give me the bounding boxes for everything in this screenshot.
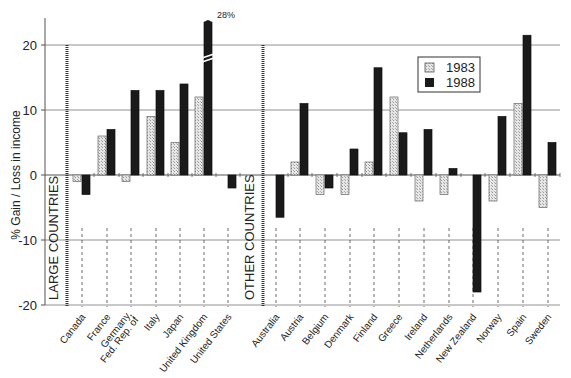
y-tick-label: 0: [30, 168, 37, 183]
bar-1988: [325, 175, 333, 188]
bar-1983: [122, 175, 130, 182]
bar-1988: [82, 175, 90, 195]
bar-1983: [98, 136, 106, 175]
bar-1988: [399, 133, 407, 175]
bar-1988: [449, 169, 457, 176]
bar-1988: [300, 104, 308, 176]
bar-chart: 20100-10-20LARGE COUNTRIESOTHER COUNTRIE…: [0, 0, 571, 378]
category-label: Greece: [376, 311, 405, 344]
bar-1983: [514, 104, 522, 176]
bar-1988: [156, 91, 164, 176]
bar-1988: [374, 68, 382, 175]
category-label: Italy: [142, 311, 162, 332]
bar-1988: [131, 91, 139, 176]
bar-annotation: 28%: [217, 10, 235, 20]
bar-1988: [180, 84, 188, 175]
group-label: OTHER COUNTRIES: [242, 174, 257, 300]
category-label: Finland: [351, 311, 380, 344]
bar-1988: [548, 143, 556, 176]
bar-1988: [276, 175, 284, 217]
bar-cap: [204, 20, 212, 23]
bar-1983: [171, 143, 179, 176]
bar-1988: [204, 22, 212, 175]
bar-1983: [415, 175, 423, 201]
bar-1983: [195, 97, 203, 175]
bar-1983: [539, 175, 547, 208]
category-label: Spain: [504, 311, 528, 338]
y-axis-label: % Gain / Loss in income: [9, 110, 23, 240]
y-tick-label: 20: [23, 38, 37, 53]
bar-1983: [390, 97, 398, 175]
bar-1983: [73, 175, 81, 182]
bar-1988: [350, 149, 358, 175]
y-tick-label: 10: [23, 103, 37, 118]
bar-1983: [365, 162, 373, 175]
category-label: Sweden: [523, 311, 554, 346]
group-label: LARGE COUNTRIES: [46, 175, 61, 300]
bar-1988: [107, 130, 115, 176]
category-label: Norway: [474, 311, 504, 344]
bar-1983: [291, 162, 299, 175]
bar-1988: [473, 175, 481, 292]
bars: [73, 20, 556, 292]
category-label: Canada: [57, 311, 88, 346]
legend-label-1988: 1988: [446, 75, 475, 90]
bar-1983: [341, 175, 349, 195]
legend-swatch-1988: [425, 78, 434, 87]
legend-label-1983: 1983: [446, 60, 475, 75]
bar-1983: [147, 117, 155, 176]
bar-1983: [440, 175, 448, 195]
legend-swatch-1983: [425, 63, 434, 72]
bar-1988: [523, 35, 531, 175]
bar-1988: [424, 130, 432, 176]
y-tick-label: -20: [18, 298, 37, 313]
legend: 1983 1988: [418, 57, 480, 92]
bar-1988: [228, 175, 236, 188]
category-label: Australia: [249, 311, 282, 349]
bar-1983: [316, 175, 324, 195]
bar-1988: [498, 117, 506, 176]
bar-1983: [489, 175, 497, 201]
